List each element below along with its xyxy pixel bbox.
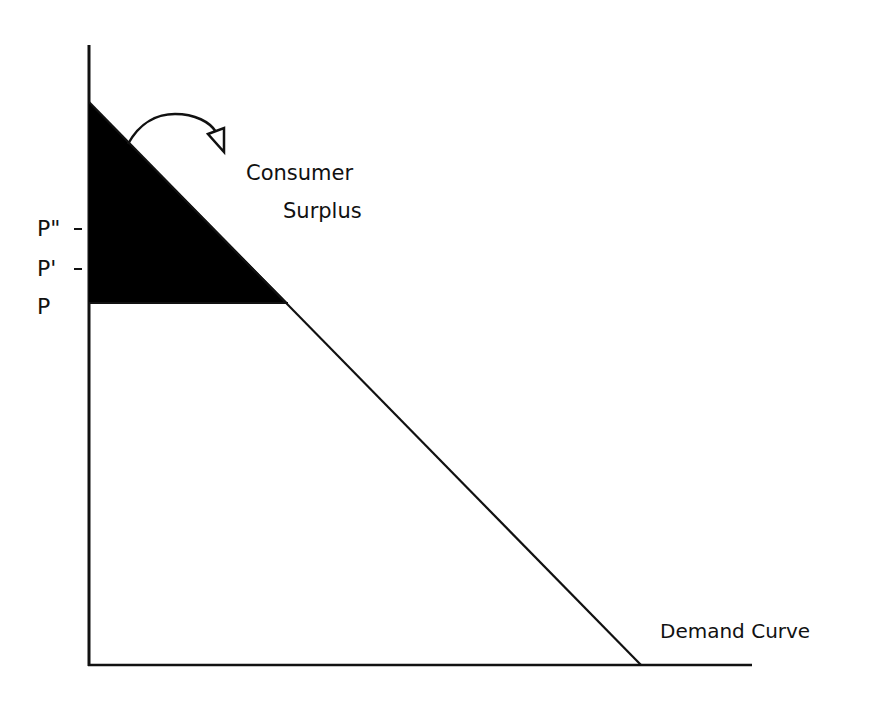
label-p-double-prime: P"	[37, 218, 60, 240]
arrow-head-icon	[208, 128, 224, 152]
label-p-prime: P'	[37, 258, 56, 280]
surplus-label: Surplus	[283, 201, 362, 222]
curved-arrow-icon	[128, 114, 216, 144]
demand-curve-chart	[0, 0, 871, 706]
label-p: P	[37, 296, 50, 318]
demand-curve-label: Demand Curve	[660, 621, 810, 641]
consumer-label: Consumer	[246, 163, 353, 184]
demand-curve-line	[89, 102, 641, 665]
